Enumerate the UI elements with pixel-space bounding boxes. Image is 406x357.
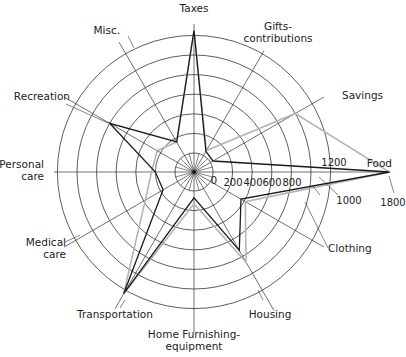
axis-label: Recreation [14, 90, 70, 102]
ring-tick-label: 400 [243, 177, 262, 188]
axis-label: Personalcare [0, 158, 44, 182]
series-polygon [124, 31, 390, 294]
axis-label: Home Furnishing-equipment [148, 328, 241, 352]
ring-tick-label: 600 [262, 177, 281, 188]
ring-tick-label: 0 [211, 175, 217, 186]
tick-leader [389, 176, 394, 193]
axis-label: Housing [249, 308, 292, 320]
axis-spoke [194, 51, 264, 172]
chart-series [110, 31, 390, 294]
ring-tick-label: 800 [282, 177, 301, 188]
ring-tick-label: 200 [223, 177, 242, 188]
radar-chart: TaxesGifts-contributionsSavingsFoodCloth… [0, 0, 406, 357]
leader-line [65, 235, 80, 242]
axis-label: Transportation [76, 308, 153, 320]
series-polygon [110, 31, 390, 294]
axis-label: Clothing [328, 242, 372, 254]
axis-label: Taxes [179, 2, 209, 14]
axis-label: Savings [342, 89, 383, 101]
outer-tick-label: 1800 [380, 197, 405, 208]
axis-label: Medicalcare [26, 236, 66, 260]
leader-line [305, 202, 328, 248]
center-point [192, 170, 196, 174]
ring-tick-label: 1000 [336, 195, 361, 206]
leader-line [120, 300, 125, 308]
ring-tick-label: 1200 [321, 157, 346, 168]
axis-label: Misc. [93, 24, 120, 36]
axis-label: Gifts-contributions [243, 20, 312, 44]
axis-label: Food [367, 157, 392, 169]
leader-line [128, 36, 134, 48]
leader-line [66, 104, 108, 123]
